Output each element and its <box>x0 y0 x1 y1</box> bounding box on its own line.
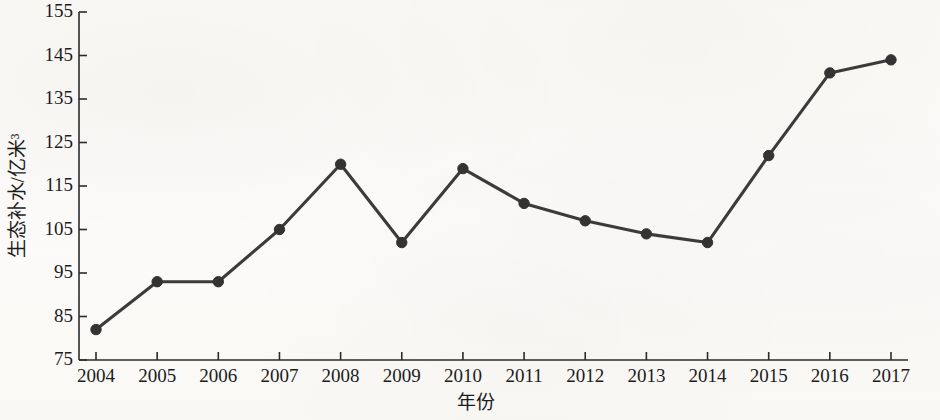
data-point-marker <box>763 150 773 160</box>
x-tick-label: 2012 <box>566 365 604 386</box>
data-point-marker <box>580 216 590 226</box>
x-tick-label: 2010 <box>444 365 482 386</box>
series-line-ecological-water <box>96 60 891 330</box>
data-point-marker <box>213 277 223 287</box>
x-tick-label: 2014 <box>689 365 728 386</box>
y-tick-label: 105 <box>45 218 74 239</box>
y-tick-label: 145 <box>45 44 74 65</box>
x-tick-label: 2006 <box>199 365 237 386</box>
line-chart-plot: 758595105115125135145155 200420052006200… <box>0 0 940 420</box>
data-point-marker <box>825 68 835 78</box>
y-tick-label: 135 <box>45 87 74 108</box>
data-point-marker <box>519 198 529 208</box>
y-tick-label: 85 <box>54 305 73 326</box>
x-axis-title: 年份 <box>457 392 495 413</box>
x-tick-label: 2013 <box>627 365 665 386</box>
series-markers <box>91 55 896 335</box>
x-tick-label: 2005 <box>138 365 176 386</box>
y-axis-ticks <box>79 12 87 360</box>
y-axis-tick-labels: 758595105115125135145155 <box>45 0 74 369</box>
y-axis-title: 生态补水/亿米³ <box>7 133 28 258</box>
data-point-marker <box>458 163 468 173</box>
chart-figure: 758595105115125135145155 200420052006200… <box>0 0 940 420</box>
data-point-marker <box>91 324 101 334</box>
data-point-marker <box>397 237 407 247</box>
y-tick-label: 115 <box>45 174 73 195</box>
data-point-marker <box>886 55 896 65</box>
x-tick-label: 2015 <box>750 365 788 386</box>
x-tick-label: 2011 <box>505 365 542 386</box>
x-tick-label: 2004 <box>77 365 116 386</box>
y-tick-label: 95 <box>54 261 73 282</box>
data-point-marker <box>335 159 345 169</box>
x-axis-tick-labels: 2004200520062007200820092010201120122013… <box>77 365 910 386</box>
data-point-marker <box>702 237 712 247</box>
x-tick-label: 2016 <box>811 365 849 386</box>
x-tick-label: 2007 <box>260 365 298 386</box>
x-axis-ticks <box>96 352 891 360</box>
x-tick-label: 2009 <box>383 365 421 386</box>
data-point-marker <box>274 224 284 234</box>
x-tick-label: 2017 <box>872 365 910 386</box>
data-point-marker <box>641 229 651 239</box>
data-point-marker <box>152 277 162 287</box>
data-series-group <box>91 55 896 335</box>
x-tick-label: 2008 <box>322 365 360 386</box>
y-tick-label: 75 <box>54 348 73 369</box>
y-tick-label: 155 <box>45 0 74 21</box>
y-tick-label: 125 <box>45 131 74 152</box>
